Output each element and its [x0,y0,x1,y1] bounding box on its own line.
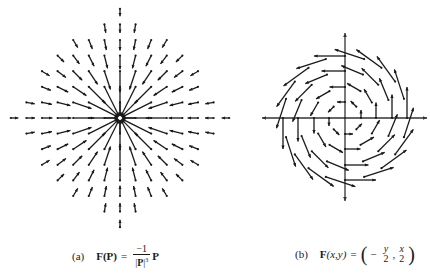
vector-arrow [133,203,136,212]
vector-arrow [57,70,66,77]
formula-a-equals: = [121,250,127,262]
vector-arrow [118,55,121,70]
radial-vector-field-plot [0,0,240,240]
vector-arrow [316,90,331,99]
vector-arrow [41,131,52,135]
vector-arrow [57,174,65,182]
vector-arrow [133,39,137,50]
vector-arrow [330,85,347,88]
caption-b: (b) F(x,y) = ( − y 2 , x 2 ) [295,244,415,264]
vector-arrow [72,140,86,150]
formula-b-equals: = [350,248,356,260]
vector-arrow [344,147,361,150]
vector-arrow [147,187,152,197]
vector-arrow [311,150,329,168]
vector-arrow [158,156,168,166]
vector-arrow [41,145,51,150]
vector-arrow [88,133,105,150]
formula-a-numerator: −1 [134,244,149,254]
vector-arrow [72,156,82,166]
vector-arrow [135,133,152,150]
vector-arrow [363,167,394,178]
x-axis-positive [344,116,427,120]
vector-arrow [72,172,79,181]
vector-arrow [146,116,168,119]
vector-arrow [103,23,106,32]
formula-b-fraction-1: y 2 [382,244,391,264]
minus-sign: − [370,248,376,260]
vector-arrow [205,116,215,119]
vector-arrow [142,152,152,166]
vector-arrow [314,54,346,57]
vector-arrow [88,119,119,135]
vector-arrow [222,116,231,119]
vector-arrow [295,84,313,102]
formula-b-args: (x,y) [327,248,347,260]
vector-arrow [371,120,380,135]
vector-arrow [103,101,118,116]
vector-arrow [189,86,199,91]
caption-a-label: (a) [72,250,84,262]
vector-arrow [174,159,183,166]
denominator-1: 2 [382,254,391,264]
vector-arrow [88,187,93,197]
vector-arrow [317,132,326,147]
vector-arrow [118,144,121,166]
vector-arrow [154,140,168,150]
exponent: 3 [145,257,148,263]
vector-arrow [146,170,152,182]
vector-arrow [158,70,168,80]
vector-arrow [281,117,284,149]
vector-arrow [72,188,78,197]
vector-arrow [305,73,328,83]
vector-arrow [188,116,200,119]
vector-arrow [172,86,184,92]
vector-arrow [176,174,184,182]
vector-arrow [188,131,199,135]
vector-arrow [57,101,71,106]
vector-arrow [103,203,106,212]
vector-arrow [325,176,356,187]
vector-arrow [103,119,118,134]
open-paren: ( [361,244,368,264]
vector-arrow [296,117,299,142]
vector-arrow [57,116,72,119]
vector-arrow [122,119,153,135]
vector-arrow [25,116,35,119]
vector-arrow [176,55,184,63]
vector-arrow [41,70,50,76]
vector-arrow [72,55,79,64]
vector-arrow [147,39,152,49]
vector-arrow [88,101,119,117]
vector-arrow [103,86,119,117]
vector-arrow [343,33,347,119]
denominator-2: 2 [397,254,406,264]
vector-arrow [296,58,327,69]
vector-arrow [88,170,94,182]
x-axis-negative [262,116,346,120]
vector-arrow [88,55,94,67]
vector-arrow [72,86,86,96]
formula-b-fraction-2: x 2 [397,244,406,264]
comma: , [393,248,396,260]
vector-arrow [88,152,98,166]
vector-arrow [169,116,184,119]
vector-arrow [322,69,347,72]
vector-arrow [118,203,121,213]
vector-arrow [390,95,393,120]
vector-arrow [88,39,93,49]
y-axis-negative [343,117,347,201]
vector-arrow [135,86,152,103]
vector-arrow [142,70,152,84]
vector-arrow [394,69,405,100]
rotational-vector-field-plot [250,0,430,240]
vector-arrow [25,131,34,134]
vector-arrow [146,55,152,67]
vector-arrow [88,70,98,84]
vector-arrow [364,89,373,104]
caption-a: (a) F(P) = −1 |P|3 P [72,244,159,268]
vector-arrow [72,70,82,80]
vector-arrow [161,55,168,64]
vector-arrow [174,70,183,77]
vector-arrow [328,144,343,153]
